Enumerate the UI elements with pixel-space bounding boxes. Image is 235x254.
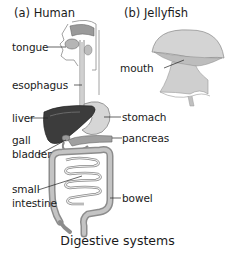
label-tongue: tongue: [12, 41, 48, 53]
jellyfish-shape: [152, 30, 224, 106]
label-pancreas: pancreas: [122, 132, 169, 144]
label-bowel: bowel: [122, 192, 153, 204]
figure-caption: Digestive systems: [0, 233, 235, 248]
head-cavity-shape: [70, 24, 94, 36]
label-liver: liver: [12, 112, 34, 124]
label-small-intestine-line2: intestine: [12, 197, 57, 209]
label-esophagus: esophagus: [12, 79, 68, 91]
human-panel-title: (a) Human: [14, 6, 75, 20]
label-gall-bladder-line2: bladder: [12, 148, 51, 160]
jellyfish-panel-title: (b) Jellyfish: [124, 6, 188, 20]
tongue-shape: [65, 39, 79, 49]
gland-shape: [84, 45, 92, 55]
pancreas-shape: [68, 136, 112, 147]
label-small-intestine-line1: small: [12, 183, 39, 195]
label-mouth: mouth: [120, 62, 154, 74]
label-gall-bladder-line1: gall: [12, 134, 31, 146]
label-stomach: stomach: [122, 111, 166, 123]
diagram-artwork: [0, 0, 235, 254]
